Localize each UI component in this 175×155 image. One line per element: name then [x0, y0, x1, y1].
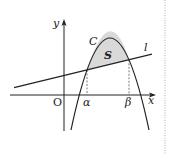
region-s-label: S — [104, 49, 112, 62]
y-axis-label: y — [52, 17, 60, 30]
alpha-label: α — [83, 96, 91, 109]
beta-label: β — [124, 96, 131, 109]
graph-figure: y x O C l S α β — [0, 0, 175, 155]
x-axis-label: x — [148, 94, 155, 107]
curve-c-label: C — [89, 35, 98, 48]
line-l-label: l — [144, 41, 148, 54]
origin-label: O — [53, 96, 62, 109]
